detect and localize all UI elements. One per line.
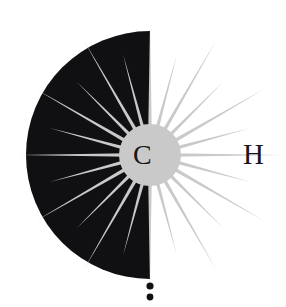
bottom-dots — [146, 282, 153, 300]
letter-c: C — [133, 141, 152, 169]
letter-h: H — [243, 140, 264, 169]
starburst-ray — [154, 176, 177, 255]
dot-lower — [147, 294, 154, 301]
starburst-ray — [154, 55, 177, 134]
starburst-ray — [171, 128, 250, 151]
starburst-ray — [164, 169, 223, 228]
starburst-ray — [172, 153, 282, 157]
artwork-canvas: C H — [0, 0, 286, 307]
dot-upper — [146, 282, 153, 289]
starburst-ray — [171, 159, 250, 182]
starburst-ray — [164, 81, 223, 140]
